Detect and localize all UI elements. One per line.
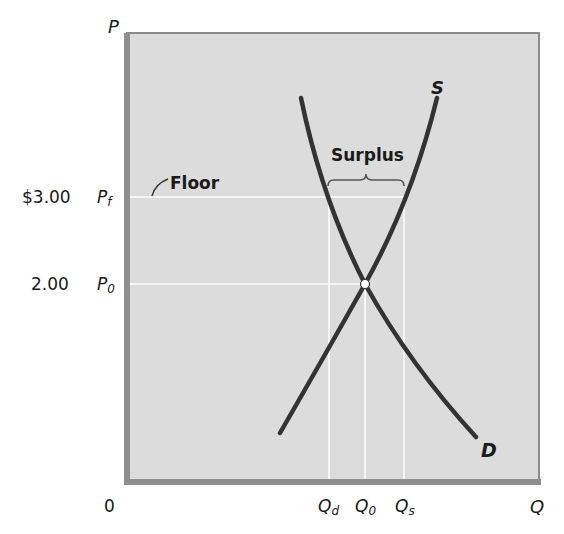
diagram-canvas <box>0 0 564 534</box>
plot-area <box>127 33 539 482</box>
qs-subscript: s <box>408 504 414 518</box>
qs-symbol: Q <box>395 496 408 516</box>
equilibrium-price-value: 2.00 <box>31 276 69 293</box>
price-axis-label: P <box>108 18 119 36</box>
demand-curve-label: D <box>481 441 497 460</box>
equilibrium-price-symbol-letter: P <box>97 274 107 294</box>
floor-label: Floor <box>170 175 219 192</box>
equilibrium-price-symbol: P0 <box>97 276 115 293</box>
price-floor-symbol: Pf <box>97 189 112 206</box>
q0-label: Q0 <box>355 498 376 515</box>
q0-symbol: Q <box>355 496 368 516</box>
equilibrium-point <box>361 280 370 289</box>
qd-label: Qd <box>318 498 339 515</box>
surplus-label: Surplus <box>331 147 404 164</box>
quantity-axis-label: Q <box>530 498 544 516</box>
qd-subscript: d <box>331 504 339 518</box>
q0-subscript: 0 <box>368 504 376 518</box>
equilibrium-price-subscript: 0 <box>107 282 115 296</box>
price-axis <box>124 33 130 485</box>
price-floor-diagram: P Q 0 $3.00 Pf 2.00 P0 Qd Q0 Qs S D Surp… <box>0 0 564 534</box>
qs-label: Qs <box>395 498 415 515</box>
quantity-axis <box>124 479 541 485</box>
price-floor-symbol-letter: P <box>97 187 107 207</box>
price-floor-subscript: f <box>107 195 111 209</box>
qd-symbol: Q <box>318 496 331 516</box>
origin-label: 0 <box>104 498 115 515</box>
price-floor-value: $3.00 <box>22 189 71 206</box>
supply-curve-label: S <box>431 79 444 97</box>
